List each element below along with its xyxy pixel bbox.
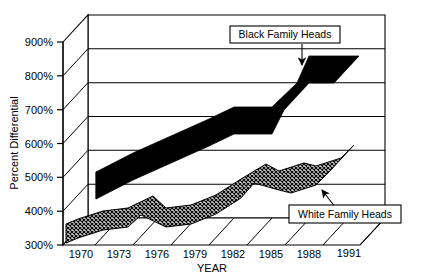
left-side-wall [63,15,88,245]
y-tick-800: 800% [25,70,53,82]
x-tick-1982: 1982 [221,248,245,260]
y-tick-300: 300% [25,239,53,251]
x-tick-1970: 1970 [69,248,93,260]
x-tick-1976: 1976 [145,248,169,260]
y-tick-400: 400% [25,205,53,217]
legend-label-black: Black Family Heads [239,28,332,40]
x-tick-1988: 1988 [297,248,321,260]
legend-label-white: White Family Heads [298,208,392,220]
x-tick-1973: 1973 [107,248,131,260]
x-axis-title: YEAR [197,262,227,274]
y-tick-900: 900% [25,36,53,48]
chart-container: 900% 800% 700% 600% 500% 400% 300% Perce… [0,0,425,280]
x-tick-1991: 1991 [337,247,361,259]
y-tick-700: 700% [25,104,53,116]
y-axis: 900% 800% 700% 600% 500% 400% 300% [25,36,63,251]
x-tick-1979: 1979 [183,248,207,260]
y-axis-title: Percent Differential [8,96,20,189]
x-axis-labels: 1970 1973 1976 1979 1982 1985 1988 1991 [69,247,361,260]
y-tick-600: 600% [25,138,53,150]
x-tick-1985: 1985 [259,248,283,260]
y-tick-500: 500% [25,171,53,183]
